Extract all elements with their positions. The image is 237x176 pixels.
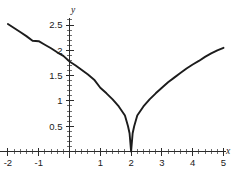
y-tick-labels: 0.511.522.5 bbox=[49, 19, 62, 131]
data-curve bbox=[8, 24, 224, 152]
y-tick-label: 1 bbox=[57, 95, 62, 106]
x-tick-label: 5 bbox=[221, 157, 226, 168]
x-tick-label: 1 bbox=[98, 157, 103, 168]
x-tick-label: 3 bbox=[159, 157, 164, 168]
y-tick-label: 1.5 bbox=[49, 70, 62, 81]
x-tick-label: -2 bbox=[4, 157, 12, 168]
y-tick-label: 0.5 bbox=[49, 121, 62, 132]
y-tick-label: 2.5 bbox=[49, 19, 62, 30]
x-tick-label: 4 bbox=[190, 157, 195, 168]
x-tick-label: -1 bbox=[34, 157, 42, 168]
x-axis-label: x bbox=[225, 146, 231, 156]
y-axis-label: y bbox=[70, 5, 76, 15]
x-tick-label: 2 bbox=[128, 157, 133, 168]
x-tick-labels: -2-112345 bbox=[4, 157, 226, 168]
plot-canvas: -2-112345 0.511.522.5 x y bbox=[0, 0, 237, 176]
chart-figure: -2-112345 0.511.522.5 x y bbox=[0, 0, 237, 176]
